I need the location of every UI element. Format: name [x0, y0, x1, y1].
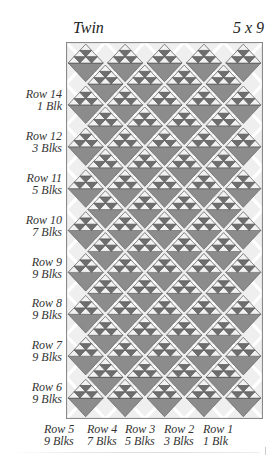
block-count: 7 Blks: [87, 435, 117, 447]
quilt-diagram: [66, 42, 263, 419]
block-count: 5 Blks: [125, 435, 155, 447]
block-count: 3 Blks: [164, 435, 194, 447]
side-row-label: Row 99 Blks: [32, 256, 62, 280]
block-count: 9 Blks: [32, 393, 62, 405]
scan-artifact-tick: [265, 447, 266, 455]
side-row-label: Row 107 Blks: [26, 214, 62, 238]
block-count: 5 Blks: [27, 184, 62, 196]
scan-artifact-line: [10, 452, 260, 453]
quilt-layout-dimensions: 5 x 9: [233, 19, 264, 37]
side-row-label: Row 79 Blks: [32, 339, 62, 363]
bottom-row-label: Row 47 Blks: [87, 423, 117, 447]
side-row-label: Row 115 Blks: [27, 172, 62, 196]
bottom-row-label: Row 59 Blks: [44, 423, 74, 447]
block-count: 9 Blks: [32, 309, 62, 321]
bottom-row-label: Row 11 Blk: [203, 423, 233, 447]
block-count: 9 Blks: [32, 268, 62, 280]
side-row-label: Row 89 Blks: [32, 297, 62, 321]
side-row-label: Row 141 Blk: [26, 88, 62, 112]
side-row-label: Row 123 Blks: [26, 130, 62, 154]
quilt-size-title: Twin: [73, 19, 104, 37]
block-count: 7 Blks: [26, 226, 62, 238]
block-count: 1 Blk: [26, 100, 62, 112]
block-count: 3 Blks: [26, 142, 62, 154]
side-row-label: Row 69 Blks: [32, 381, 62, 405]
block-count: 9 Blks: [32, 351, 62, 363]
block-count: 1 Blk: [203, 435, 233, 447]
bottom-row-label: Row 35 Blks: [125, 423, 155, 447]
block-count: 9 Blks: [44, 435, 74, 447]
bottom-row-label: Row 23 Blks: [164, 423, 194, 447]
